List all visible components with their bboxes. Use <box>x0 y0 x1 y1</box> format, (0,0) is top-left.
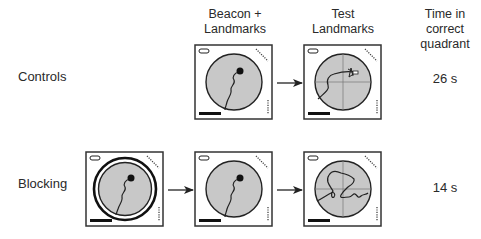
beacon-platform-icon <box>237 175 244 182</box>
panel-blocking-beacon-curtained <box>85 151 165 228</box>
arrow-blocking-1 <box>167 185 195 195</box>
landmark-oval-icon <box>308 156 318 160</box>
arrow-controls <box>276 78 304 88</box>
panel-blocking-test-landmarks <box>303 151 383 228</box>
header-line: Test <box>309 7 377 22</box>
landmark-bar-icon <box>90 219 112 222</box>
header-line: Beacon + <box>203 7 267 22</box>
landmark-oval-icon <box>308 49 318 53</box>
panel-controls-test-landmarks <box>303 44 383 121</box>
header-time-in-quadrant: Time in correct quadrant <box>415 7 475 52</box>
header-beacon-landmarks: Beacon + Landmarks <box>203 7 267 37</box>
header-line: Time in <box>415 7 475 22</box>
landmark-bar-icon <box>308 112 330 115</box>
header-line: Landmarks <box>203 22 267 37</box>
landmark-oval-icon <box>199 49 209 53</box>
row-label-blocking: Blocking <box>18 176 67 192</box>
row-label-controls: Controls <box>18 69 66 85</box>
platform-location-icon <box>353 71 358 74</box>
landmark-oval-icon <box>199 156 209 160</box>
arrow-blocking-2 <box>276 185 304 195</box>
beacon-platform-icon <box>128 175 135 182</box>
panel-controls-beacon-landmarks <box>194 44 274 121</box>
landmark-bar-icon <box>199 112 221 115</box>
header-line: Landmarks <box>309 22 377 37</box>
time-value-blocking: 14 s <box>415 180 475 195</box>
time-value-controls: 26 s <box>415 71 475 86</box>
header-line: correct <box>415 22 475 37</box>
beacon-platform-icon <box>237 68 244 75</box>
landmark-oval-icon <box>90 156 100 160</box>
header-line: quadrant <box>415 37 475 52</box>
landmark-bar-icon <box>199 219 221 222</box>
landmark-bar-icon <box>308 219 330 222</box>
panel-blocking-beacon-landmarks <box>194 151 274 228</box>
header-test-landmarks: Test Landmarks <box>309 7 377 37</box>
